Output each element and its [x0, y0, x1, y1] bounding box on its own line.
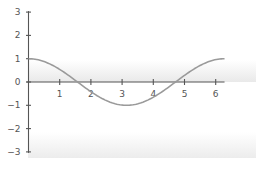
y-tick-label: 2	[15, 30, 21, 40]
cosine-chart: 3210−1−2−3123456	[0, 0, 265, 170]
y-tick-label: 0	[15, 77, 21, 87]
y-tick-label: 3	[15, 7, 21, 17]
y-tick-label: −2	[7, 124, 20, 134]
y-tick-label: −1	[7, 100, 20, 110]
y-tick-label: 1	[15, 54, 21, 64]
x-tick-label: 1	[57, 89, 63, 99]
x-tick-label: 3	[119, 89, 125, 99]
shade-band-bottom	[28, 132, 256, 158]
x-tick-label: 6	[213, 89, 219, 99]
x-tick-label: 5	[182, 89, 188, 99]
axes	[26, 11, 225, 153]
y-tick-label: −3	[7, 147, 20, 157]
